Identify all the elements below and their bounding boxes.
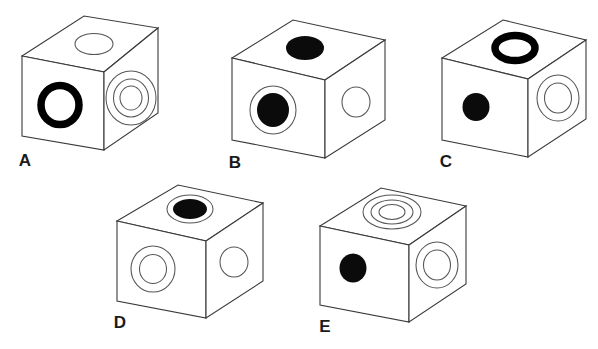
cube-e[interactable]: E	[319, 188, 466, 336]
cube-d-top-solid-dot	[173, 199, 207, 219]
cube-b[interactable]: B	[229, 20, 385, 172]
cube-b-top-solid-circle	[286, 36, 324, 60]
cube-c-front-solid-dot	[463, 93, 490, 121]
cube-b-label: B	[229, 153, 241, 172]
cube-d[interactable]: D	[114, 185, 263, 332]
cube-c[interactable]: C	[440, 20, 586, 171]
cube-e-front-solid-dot	[340, 254, 367, 283]
cube-figure-canvas: A B C	[0, 0, 598, 349]
cube-a-label: A	[19, 151, 31, 170]
cube-a[interactable]: A	[19, 16, 158, 170]
cube-c-label: C	[440, 152, 452, 171]
cube-b-front-solid-dot	[257, 93, 289, 127]
cube-a-front-face	[22, 56, 104, 150]
cube-e-label: E	[319, 317, 330, 336]
cube-d-label: D	[114, 313, 126, 332]
